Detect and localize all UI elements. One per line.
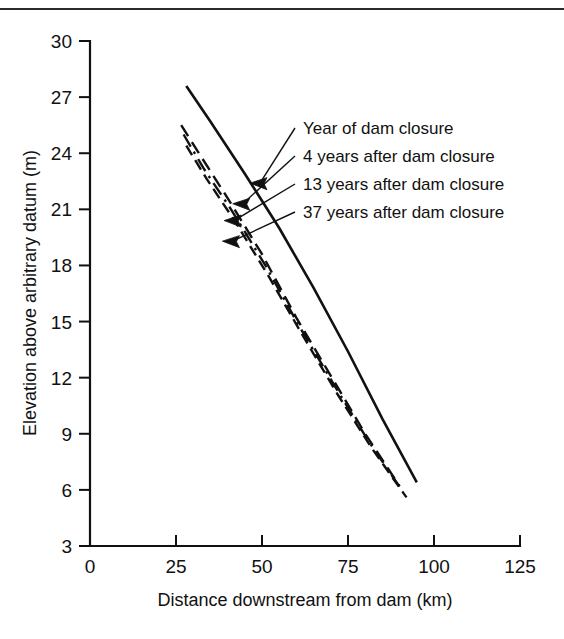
y-axis-ticks: 36912151821242730 — [51, 31, 90, 557]
series-line — [186, 86, 416, 483]
annotation-label: 37 years after dam closure — [303, 203, 504, 222]
annotation-arrowhead — [233, 198, 250, 210]
annotation-arrowhead — [224, 215, 241, 227]
annotation-arrowhead — [222, 236, 239, 248]
x-axis-title: Distance downstream from dam (km) — [157, 590, 452, 610]
y-tick-label: 27 — [51, 87, 72, 108]
y-tick-label: 30 — [51, 31, 72, 52]
y-tick-label: 6 — [61, 480, 72, 501]
y-tick-label: 12 — [51, 368, 72, 389]
annotation-label: 4 years after dam closure — [303, 147, 495, 166]
y-tick-label: 18 — [51, 255, 72, 276]
y-tick-label: 21 — [51, 199, 72, 220]
top-divider-rule — [0, 8, 564, 10]
y-axis-title: Elevation above arbitrary datum (m) — [20, 150, 40, 436]
axes — [90, 41, 520, 546]
x-tick-label: 25 — [165, 556, 186, 577]
x-tick-label: 0 — [85, 556, 96, 577]
y-tick-label: 3 — [61, 536, 72, 557]
x-axis-ticks: 0255075100125 — [85, 535, 536, 577]
annotation-callouts: Year of dam closure4 years after dam clo… — [222, 119, 504, 248]
x-tick-label: 50 — [251, 556, 272, 577]
annotation-label: 13 years after dam closure — [303, 175, 504, 194]
series-line — [186, 146, 406, 498]
y-tick-label: 24 — [51, 143, 73, 164]
figure-container: 36912151821242730 0255075100125 Year of … — [0, 0, 564, 639]
annotation-leader-line — [260, 128, 295, 183]
x-tick-label: 125 — [504, 556, 536, 577]
annotation-label: Year of dam closure — [303, 119, 454, 138]
y-tick-label: 9 — [61, 424, 72, 445]
x-tick-label: 75 — [337, 556, 358, 577]
x-tick-label: 100 — [418, 556, 450, 577]
annotation-leader-line — [243, 156, 295, 204]
y-tick-label: 15 — [51, 312, 72, 333]
line-chart: 36912151821242730 0255075100125 Year of … — [0, 0, 564, 639]
